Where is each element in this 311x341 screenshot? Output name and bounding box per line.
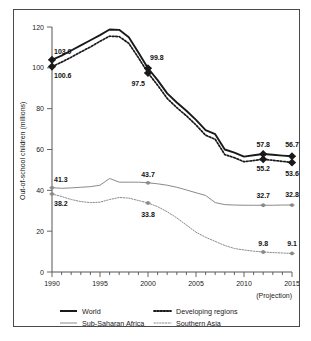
legend-label-sub-saharan-africa: Sub-Saharan Africa — [82, 319, 144, 326]
projection-note: (Projection) — [256, 292, 292, 300]
data-label: 33.8 — [141, 211, 155, 218]
data-label: 103.9 — [54, 48, 72, 55]
svg-text:1990: 1990 — [44, 280, 60, 287]
chart-figure: Out-of-school children (millions) 020406… — [13, 9, 300, 327]
data-label: 97.5 — [131, 80, 145, 87]
legend-label-southern-asia: Southern Asia — [176, 319, 221, 326]
svg-text:2005: 2005 — [188, 280, 204, 287]
data-label: 32.7 — [256, 192, 270, 199]
data-label: 43.7 — [141, 171, 155, 178]
y-axis-ticks: 020406080100120 — [32, 24, 52, 276]
x-axis-ticks: 199019952000200520102015 — [44, 272, 299, 287]
legend-item-developing-regions[interactable]: Developing regions — [154, 307, 238, 316]
data-point-markers — [49, 57, 296, 256]
legend-label-developing-regions: Developing regions — [176, 307, 238, 316]
svg-text:120: 120 — [32, 24, 44, 31]
svg-text:0: 0 — [40, 269, 44, 276]
line-chart: Out-of-school children (millions) 020406… — [14, 10, 299, 326]
data-label: 100.6 — [54, 72, 72, 79]
svg-text:2010: 2010 — [236, 280, 252, 287]
data-label: 53.6 — [285, 170, 299, 177]
svg-text:20: 20 — [36, 228, 44, 235]
legend-item-sub-saharan-africa[interactable]: Sub-Saharan Africa — [60, 319, 144, 326]
svg-text:2000: 2000 — [140, 280, 156, 287]
svg-text:100: 100 — [32, 64, 44, 71]
data-label: 9.8 — [258, 240, 268, 247]
y-axis-title: Out-of-school children (millions) — [19, 102, 27, 200]
legend-label-world: World — [82, 307, 101, 316]
data-label: 41.3 — [54, 176, 68, 183]
chart-legend: World Developing regions Sub-Saharan Afr… — [60, 307, 238, 326]
svg-text:60: 60 — [36, 146, 44, 153]
data-label: 99.8 — [150, 54, 164, 61]
data-label: 32.8 — [285, 191, 299, 198]
data-label: 57.8 — [256, 141, 270, 148]
data-label: 56.7 — [285, 141, 299, 148]
data-label: 55.2 — [256, 165, 270, 172]
svg-text:80: 80 — [36, 105, 44, 112]
legend-item-world[interactable]: World — [60, 307, 101, 316]
svg-text:40: 40 — [36, 187, 44, 194]
svg-text:2015: 2015 — [284, 280, 299, 287]
axis-lines — [52, 27, 292, 272]
data-label: 9.1 — [287, 240, 297, 247]
svg-text:1995: 1995 — [92, 280, 108, 287]
legend-item-southern-asia[interactable]: Southern Asia — [154, 319, 221, 326]
data-label: 38.2 — [54, 200, 68, 207]
